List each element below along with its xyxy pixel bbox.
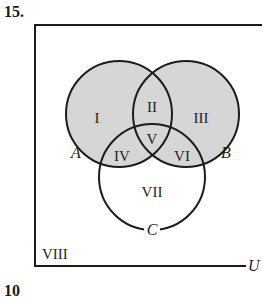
region-label-III: III	[194, 110, 209, 126]
universe-label: U	[248, 257, 261, 274]
region-label-VIII: VIII	[42, 246, 68, 262]
next-problem-number-partial: 10	[4, 282, 20, 300]
region-label-VI: VI	[174, 148, 190, 164]
region-label-I: I	[95, 110, 100, 126]
region-label-II: II	[147, 99, 157, 115]
region-label-IV: IV	[114, 148, 130, 164]
set-label-a: A	[70, 144, 81, 161]
region-label-VII: VII	[142, 184, 163, 200]
set-label-c: C	[147, 221, 158, 238]
set-label-b: B	[221, 144, 231, 161]
region-label-V: V	[147, 131, 158, 147]
